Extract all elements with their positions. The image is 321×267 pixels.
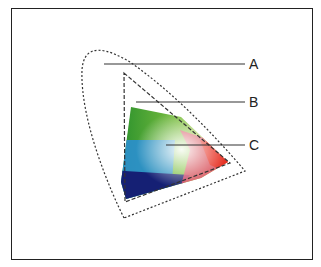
label-b: B: [249, 95, 258, 109]
gamut-diagram: [0, 0, 321, 267]
label-a: A: [249, 57, 258, 71]
label-c: C: [249, 138, 259, 152]
